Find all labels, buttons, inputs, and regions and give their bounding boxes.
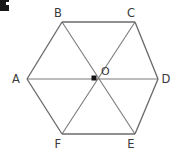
vertex-label-f: F [55, 137, 62, 151]
vertex-label-d: D [161, 72, 170, 86]
center-point-dot [92, 76, 97, 81]
edge-de [135, 79, 158, 134]
edge-cd [135, 22, 158, 79]
hexagon-diagram: ABCDEFO [0, 0, 186, 153]
vertex-label-c: C [127, 6, 135, 20]
geometry-figure-canvas: ABCDEFO [0, 0, 186, 153]
vertex-label-a: A [12, 72, 20, 86]
center-label-o: O [101, 65, 110, 78]
edge-ab [27, 22, 62, 79]
edge-fa [27, 79, 62, 134]
hexagon-center-group [92, 76, 97, 81]
vertex-label-e: E [127, 137, 134, 151]
vertex-label-b: B [54, 6, 62, 20]
